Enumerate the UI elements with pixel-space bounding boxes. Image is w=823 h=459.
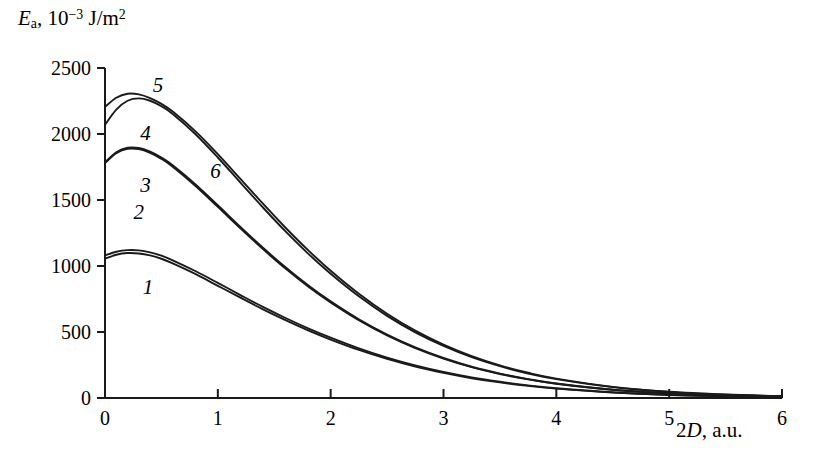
x-axis-tick-label: 2 (326, 408, 336, 428)
y-axis-tick-label: 1500 (0, 190, 91, 210)
curve-label-6: 6 (210, 160, 221, 181)
curve-label-1: 1 (143, 277, 154, 298)
chart-figure: Ea, 10−3 J/m2 2D, a.u. 05001000150020002… (0, 0, 823, 459)
curve-label-2: 2 (134, 201, 145, 222)
data-curve-1 (105, 253, 782, 397)
plot-area (0, 0, 823, 459)
y-axis-tick-label: 1000 (0, 256, 91, 276)
x-axis-tick-label: 6 (777, 408, 787, 428)
x-axis-tick-label: 0 (100, 408, 110, 428)
x-axis-tick-label: 3 (439, 408, 449, 428)
x-axis-tick-label: 1 (213, 408, 223, 428)
data-curve-2 (105, 250, 782, 397)
curve-label-5: 5 (153, 75, 164, 96)
data-curves (105, 94, 782, 398)
x-axis-tick-label: 4 (551, 408, 561, 428)
y-axis-ticks (97, 68, 105, 398)
x-axis-tick-label: 5 (664, 408, 674, 428)
axes (105, 68, 782, 398)
y-axis-tick-label: 500 (0, 322, 91, 342)
curve-label-4: 4 (140, 122, 151, 143)
y-axis-tick-label: 2000 (0, 124, 91, 144)
y-axis-tick-label: 0 (0, 388, 91, 408)
y-axis-tick-label: 2500 (0, 58, 91, 78)
data-curve-5 (105, 94, 782, 397)
data-curve-3 (105, 148, 782, 396)
curve-label-3: 3 (140, 175, 151, 196)
